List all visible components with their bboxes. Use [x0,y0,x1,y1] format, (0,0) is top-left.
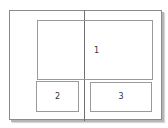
region-2: 2 [36,81,79,112]
region-3: 3 [90,82,152,112]
region-1: 1 [37,20,153,80]
region-1-label: 1 [94,47,99,55]
region-2-label: 2 [55,93,60,101]
region-3-label: 3 [118,93,123,101]
